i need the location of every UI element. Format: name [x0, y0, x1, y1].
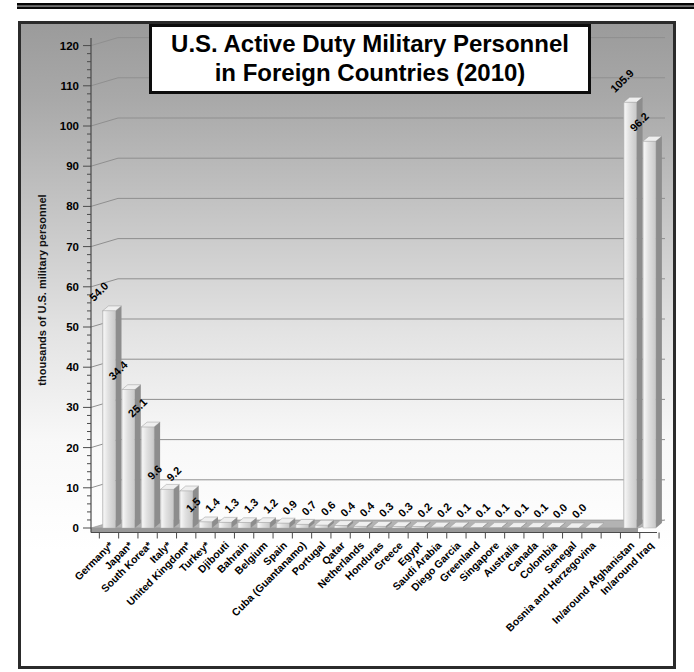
- bar: [257, 523, 270, 528]
- bar-side-face: [116, 306, 122, 528]
- bar: [296, 524, 309, 528]
- bar-value-label: 1.3: [241, 496, 260, 515]
- chart-frame: 010203040506070809010011012054.0Germany*…: [18, 21, 676, 669]
- chart-title-box: U.S. Active Duty Military Personnel in F…: [149, 24, 591, 94]
- bar: [431, 527, 444, 528]
- bar: [411, 527, 424, 528]
- y-tick-label: 60: [66, 281, 79, 293]
- bar-value-label: 0.1: [492, 501, 511, 520]
- floor-front: [91, 528, 638, 533]
- bar: [160, 489, 173, 528]
- gridline: [91, 319, 665, 327]
- axis-labels-group: 010203040506070809010011012054.0Germany*…: [60, 40, 656, 634]
- bar-value-label: 0.1: [531, 501, 550, 520]
- bar-value-label: 0.7: [299, 498, 318, 517]
- bar-value-label: 0.0: [569, 501, 588, 520]
- bar: [315, 525, 328, 528]
- y-tick-label: 90: [66, 160, 79, 172]
- y-tick-label: 50: [66, 321, 79, 333]
- bar: [624, 102, 637, 528]
- axes-group: [83, 38, 659, 539]
- gridline: [91, 279, 665, 287]
- bar: [450, 527, 463, 528]
- chart-title-line1: U.S. Active Duty Military Personnel: [156, 29, 584, 58]
- y-tick-label: 70: [66, 241, 79, 253]
- bar-value-label: 1.3: [222, 496, 241, 515]
- y-tick-label: 100: [60, 120, 79, 132]
- gridline: [91, 239, 665, 247]
- bar: [373, 526, 386, 528]
- bar-value-label: 1.4: [203, 495, 223, 515]
- bar: [238, 523, 251, 528]
- y-tick-label: 80: [66, 200, 79, 212]
- bar-value-label: 0.1: [454, 501, 473, 520]
- y-tick-label: 20: [66, 442, 79, 454]
- chart-title-line2: in Foreign Countries (2010): [156, 58, 584, 87]
- bar: [353, 526, 366, 528]
- bar-value-label: 0.1: [473, 501, 492, 520]
- gridline: [91, 399, 665, 407]
- y-tick-label: 120: [60, 40, 79, 52]
- y-tick-label: 110: [60, 80, 79, 92]
- gridlines-group: [91, 38, 665, 488]
- bars-group: [103, 97, 662, 528]
- bar-chart-plot: 010203040506070809010011012054.0Germany*…: [21, 24, 667, 660]
- bar-value-label: 0.1: [512, 501, 531, 520]
- bar: [276, 523, 289, 528]
- bar-value-label: 0.6: [319, 499, 338, 518]
- bar-value-label: 0.3: [376, 500, 395, 519]
- gridline: [91, 118, 665, 126]
- bar-value-label: 0.2: [434, 500, 453, 519]
- bar-value-label: 0.4: [357, 499, 377, 519]
- bar: [643, 141, 656, 528]
- bar: [199, 522, 212, 528]
- y-tick-label: 10: [66, 482, 79, 494]
- bar-side-face: [637, 97, 643, 528]
- bar: [218, 522, 231, 528]
- y-tick-label: 30: [66, 401, 79, 413]
- bar-value-label: 0.4: [338, 499, 358, 519]
- bar-value-label: 9.2: [164, 464, 183, 483]
- bar-side-face: [173, 484, 179, 528]
- y-tick-label: 40: [66, 361, 79, 373]
- gridline: [91, 198, 665, 206]
- bar-value-label: 0.0: [550, 501, 569, 520]
- scanned-chart-page: 010203040506070809010011012054.0Germany*…: [0, 0, 694, 672]
- y-tick-label: 0: [73, 522, 79, 534]
- bar: [392, 527, 405, 528]
- page-top-rule: [17, 3, 694, 9]
- bar-value-label: 0.9: [280, 497, 299, 516]
- bar: [103, 311, 116, 528]
- gridline: [91, 158, 665, 166]
- bar-value-label: 1.2: [261, 496, 280, 515]
- bar-side-face: [656, 136, 662, 528]
- bar-value-label: 105.9: [608, 67, 636, 95]
- bar-value-label: 0.3: [396, 500, 415, 519]
- y-axis-title: thousands of U.S. military personnel: [36, 175, 52, 405]
- bar-value-label: 0.2: [415, 500, 434, 519]
- gridline: [91, 440, 665, 448]
- bar: [334, 526, 347, 528]
- gridline: [91, 359, 665, 367]
